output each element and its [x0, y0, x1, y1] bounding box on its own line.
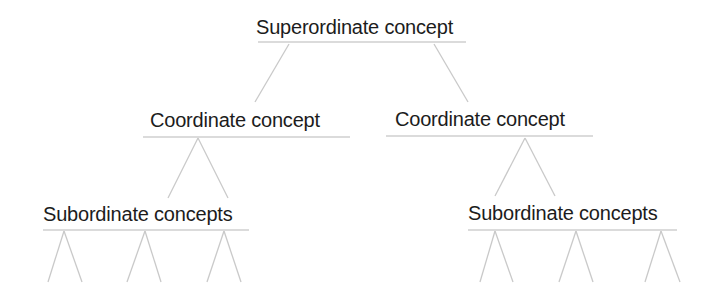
leaf-branch-left: [48, 231, 64, 282]
hierarchy-edge: [168, 138, 198, 198]
superordinate-concept-label: Superordinate concept: [256, 17, 453, 37]
hierarchy-edge: [255, 44, 289, 102]
coordinate-concept-left-label: Coordinate concept: [150, 110, 320, 130]
hierarchy-edge: [525, 138, 555, 196]
subordinate-concepts-right-label: Subordinate concepts: [468, 203, 657, 223]
leaf-branch-right: [64, 231, 82, 282]
leaf-branch-left: [207, 231, 224, 282]
leaf-branch-right: [495, 231, 513, 282]
subordinate-concepts-left-label: Subordinate concepts: [43, 204, 232, 224]
concept-hierarchy-diagram: Superordinate concept Coordinate concept…: [0, 0, 710, 295]
leaf-branch-left: [127, 231, 145, 282]
leaf-branch-left: [645, 231, 661, 282]
coordinate-concept-right-label: Coordinate concept: [395, 109, 565, 129]
leaf-branch-right: [661, 231, 680, 282]
leaf-branch-left: [480, 231, 495, 282]
hierarchy-edge: [434, 44, 468, 102]
hierarchy-edge: [198, 138, 228, 198]
hierarchy-edge: [495, 138, 525, 196]
leaf-branch-right: [224, 231, 241, 282]
leaf-branch-right: [576, 231, 593, 282]
connector-lines: [0, 0, 710, 295]
leaf-branch-right: [145, 231, 161, 282]
leaf-branch-left: [559, 231, 576, 282]
